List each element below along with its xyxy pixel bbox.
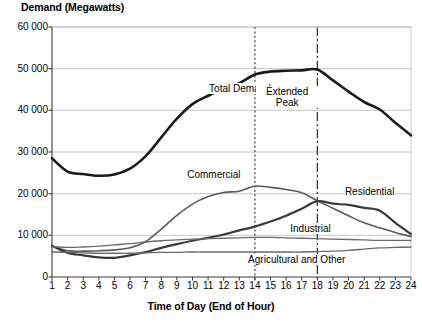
x-tick-label: 21 [356, 281, 372, 291]
annotation-extended-peak: ExtendedPeak [256, 86, 318, 108]
x-tick-label: 20 [341, 281, 357, 291]
data-series [52, 69, 411, 258]
x-tick-label: 3 [75, 281, 91, 291]
annotation-line-2: Peak [257, 97, 317, 108]
plot-area [0, 0, 422, 323]
series-line-industrial [52, 237, 411, 247]
y-tick-label: 40 000 [2, 105, 48, 115]
annotation-line-1: Extended [257, 86, 317, 97]
x-tick-label: 1 [44, 281, 60, 291]
series-label-residential: Residential [344, 186, 395, 197]
x-tick-label: 12 [216, 281, 232, 291]
x-tick-label: 9 [169, 281, 185, 291]
x-axis-title: Time of Day (End of Hour) [0, 300, 422, 312]
series-label-industrial: Industrial [289, 223, 332, 234]
x-tick-label: 4 [91, 281, 107, 291]
x-tick-label: 24 [403, 281, 419, 291]
grid-lines [52, 27, 411, 235]
x-tick-label: 5 [106, 281, 122, 291]
x-tick-label: 7 [138, 281, 154, 291]
x-tick-label: 10 [184, 281, 200, 291]
y-tick-label: 50 000 [2, 64, 48, 74]
y-tick-label: 0 [2, 272, 48, 282]
axis-tick-marks [49, 27, 412, 281]
x-tick-label: 17 [294, 281, 310, 291]
chart-title: Demand (Megawatts) [21, 1, 124, 13]
x-tick-label: 18 [309, 281, 325, 291]
x-tick-label: 19 [325, 281, 341, 291]
y-tick-label: 20 000 [2, 189, 48, 199]
x-tick-label: 23 [387, 281, 403, 291]
x-tick-label: 16 [278, 281, 294, 291]
vertical-marker-lines [255, 27, 317, 281]
y-tick-label: 10 000 [2, 230, 48, 240]
y-tick-label: 30 000 [2, 147, 48, 157]
series-label-commercial: Commercial [186, 169, 241, 180]
series-label-agricultural-and-other: Agricultural and Other [247, 254, 346, 265]
x-tick-label: 22 [372, 281, 388, 291]
x-tick-label: 14 [247, 281, 263, 291]
demand-chart: Demand (Megawatts) Time of Day (End of H… [0, 0, 422, 323]
x-tick-label: 13 [231, 281, 247, 291]
x-tick-label: 15 [263, 281, 279, 291]
x-tick-label: 2 [60, 281, 76, 291]
x-tick-label: 11 [200, 281, 216, 291]
y-tick-label: 60 000 [2, 22, 48, 32]
x-tick-label: 6 [122, 281, 138, 291]
x-tick-label: 8 [153, 281, 169, 291]
